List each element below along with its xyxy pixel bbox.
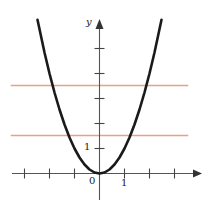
parabola-figure: y 0 1 1 — [0, 0, 213, 218]
origin-label: 0 — [89, 176, 95, 186]
x-axis-arrowhead — [193, 170, 202, 178]
y-axis-arrowhead — [96, 19, 104, 29]
x-axis-tick-label-one: 1 — [121, 178, 127, 188]
y-axis-label: y — [86, 17, 92, 27]
plot-canvas — [0, 0, 213, 218]
y-axis-tick-label-one: 1 — [84, 142, 90, 152]
